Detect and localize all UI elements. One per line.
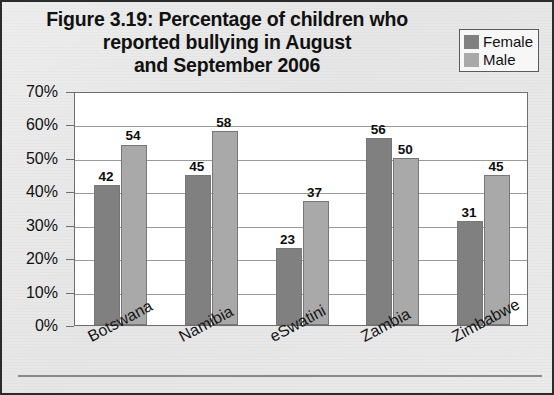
figure-container: Figure 3.19: Percentage of children who … [0,0,554,395]
y-axis-tick-label: 70% [26,83,58,101]
chart-title-line-3: and September 2006 [36,54,418,77]
y-axis-labels: 0%10%20%30%40%50%60%70% [2,92,66,326]
legend-item-male: Male [464,51,533,68]
bar-value-label: 50 [398,142,413,157]
bar-value-label: 37 [307,185,322,200]
y-axis-tick-label: 50% [26,150,58,168]
y-axis-tick-mark [66,92,74,93]
y-axis-tick-label: 60% [26,116,58,134]
legend-swatch-female [464,35,479,49]
chart-title: Figure 3.19: Percentage of children who … [36,8,418,76]
bar-value-label: 31 [462,205,477,220]
legend-item-female: Female [464,33,533,50]
bar-value-label: 45 [189,159,204,174]
y-axis-tick-label: 40% [26,183,58,201]
y-axis-tick-mark [66,326,74,327]
plot-wrapper: 42544558233756503145 [74,92,528,326]
y-axis-tick-mark [66,159,74,160]
bar-value-label: 58 [216,115,231,130]
bar-zambia-female [366,138,392,325]
gridline [75,126,527,127]
bar-namibia-male [212,131,238,325]
legend-swatch-male [464,53,479,67]
bar-value-label: 54 [125,128,140,143]
bar-namibia-female [185,175,211,325]
y-axis-tick-label: 30% [26,217,58,235]
bar-value-label: 23 [280,232,295,247]
y-axis-tick-mark [66,192,74,193]
bar-value-label: 45 [489,159,504,174]
page-rule [18,375,542,377]
legend-label-female: Female [483,34,533,49]
y-axis-ticks [66,92,74,326]
y-axis-tick-label: 10% [26,284,58,302]
y-axis-tick-mark [66,226,74,227]
chart-title-line-2: reported bullying in August [36,31,418,54]
chart-legend: Female Male [459,29,539,72]
legend-label-male: Male [483,52,516,67]
y-axis-tick-mark [66,125,74,126]
x-axis-labels: BotswanaNamibiaeSwatiniZambiaZimbabwe [74,326,528,394]
bar-value-label: 56 [371,122,386,137]
y-axis-tick-label: 0% [35,317,58,335]
y-axis-tick-mark [66,259,74,260]
plot-area [74,92,528,326]
chart-title-line-1: Figure 3.19: Percentage of children who [36,8,418,31]
y-axis-tick-mark [66,293,74,294]
bar-zambia-male [393,158,419,325]
bar-value-label: 42 [98,169,113,184]
bar-zimbabwe-female [457,221,483,325]
bar-botswana-female [94,185,120,325]
y-axis-tick-label: 20% [26,250,58,268]
